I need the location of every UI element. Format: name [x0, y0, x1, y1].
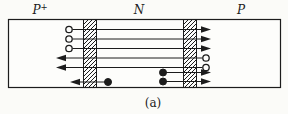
- electron-icon: [160, 69, 167, 76]
- device-diagram: P+ N P (a): [0, 0, 288, 114]
- region-label-base: N: [133, 3, 145, 17]
- region-labels: P+ N P: [31, 2, 246, 17]
- hole-icon: [66, 36, 72, 42]
- emitter-label-superscript: +: [40, 2, 47, 12]
- region-label-emitter: P+: [31, 2, 47, 17]
- hole-icon: [66, 45, 72, 51]
- region-label-collector: P: [236, 3, 246, 17]
- hole-icon: [203, 55, 209, 61]
- electron-icon: [105, 79, 112, 86]
- hole-icon: [203, 64, 209, 70]
- hole-icon: [66, 26, 72, 32]
- electron-icon: [160, 78, 167, 85]
- figure-caption: (a): [145, 96, 162, 110]
